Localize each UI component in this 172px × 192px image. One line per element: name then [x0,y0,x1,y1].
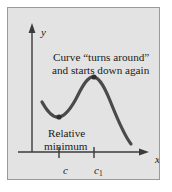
x-tick-label-c: c [63,165,68,176]
y-axis [29,23,36,152]
relative-minimum-point [56,114,61,119]
curve-annotation-line-2: and starts down again [52,65,149,76]
relative-minimum-label-line-2: minimum [44,141,88,152]
figure-panel: Curve “turns around” and starts down aga… [7,7,160,180]
curve-annotation-line-1: Curve “turns around” [53,52,149,63]
tick-c1-subscript: 1 [99,169,103,178]
y-axis-label: y [41,27,46,38]
figure-root: Curve “turns around” and starts down aga… [0,0,172,192]
x-tick-label-c1: c1 [94,165,103,176]
x-axis-label: x [155,154,160,165]
graph-canvas [8,8,160,180]
relative-minimum-label-line-1: Relative [48,128,85,139]
